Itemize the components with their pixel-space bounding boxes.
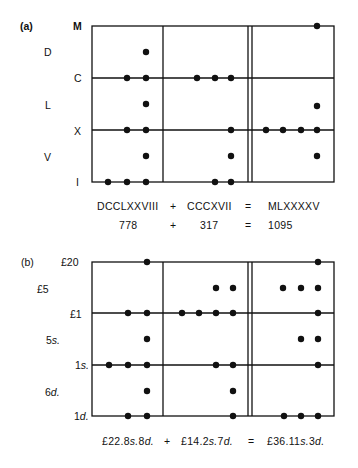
counter [280, 127, 286, 133]
counter [143, 49, 149, 55]
counter [125, 362, 131, 368]
counter [143, 179, 149, 185]
board-b-grid [92, 262, 334, 416]
counter [144, 413, 150, 419]
counter [124, 179, 130, 185]
counter [228, 75, 234, 81]
counter [194, 75, 200, 81]
counter [212, 75, 218, 81]
counter [281, 413, 287, 419]
row-label-5-shillings: 5s. [46, 334, 60, 346]
counter [314, 23, 320, 29]
counter [230, 285, 236, 291]
counter [143, 127, 149, 133]
money-addend-2: £14.2s.7d. [181, 435, 233, 447]
counter [230, 413, 236, 419]
roman-equals: = [245, 200, 251, 212]
row-label-6-pence: 6d. [45, 386, 60, 398]
counter [125, 310, 131, 316]
money-plus: + [164, 435, 170, 447]
roman-sum: MLXXXXV [268, 200, 320, 212]
board-a-counters [105, 23, 320, 185]
row-label-20-pounds: £20 [61, 256, 79, 268]
counter [228, 179, 234, 185]
counter [314, 153, 320, 159]
counter [143, 153, 149, 159]
counter [230, 310, 236, 316]
counter [143, 101, 149, 107]
board-b-counters [106, 259, 321, 419]
board-a-grid [92, 26, 334, 182]
counter [315, 362, 321, 368]
counter [228, 153, 234, 159]
counter [106, 362, 112, 368]
counter [213, 310, 219, 316]
counter [212, 179, 218, 185]
counter [144, 336, 150, 342]
counter [315, 336, 321, 342]
counter [230, 362, 236, 368]
arabic-addend-2: 317 [200, 219, 218, 231]
arabic-plus: + [170, 219, 176, 231]
counter [125, 413, 131, 419]
counter [144, 310, 150, 316]
panel-b-tag: (b) [21, 256, 34, 268]
counter [263, 127, 269, 133]
counter [144, 362, 150, 368]
counter [298, 127, 304, 133]
roman-addend-2: CCCXVII [187, 200, 232, 212]
counter [179, 310, 185, 316]
counter [213, 285, 219, 291]
counter [315, 285, 321, 291]
counter [124, 127, 130, 133]
counter [314, 127, 320, 133]
row-label-1-shilling: 1s. [75, 359, 89, 371]
counter [298, 285, 304, 291]
row-label-1-pound: £1 [70, 308, 82, 320]
counter [315, 413, 321, 419]
roman-plus: + [170, 200, 176, 212]
counter [144, 388, 150, 394]
counter [315, 310, 321, 316]
counter [280, 285, 286, 291]
counter [298, 336, 304, 342]
counter [315, 259, 321, 265]
counter [298, 413, 304, 419]
counter [124, 75, 130, 81]
money-equals: = [248, 435, 254, 447]
counter [143, 75, 149, 81]
arabic-equals: = [245, 219, 251, 231]
counter [213, 362, 219, 368]
money-addend-1: £22.8s.8d. [102, 435, 154, 447]
arabic-addend-1: 778 [119, 219, 137, 231]
roman-addend-1: DCCLXXVIII [97, 200, 158, 212]
counter [230, 388, 236, 394]
row-label-5-pounds: £5 [37, 283, 49, 295]
arabic-sum: 1095 [268, 219, 293, 231]
money-sum: £36.11s.3d. [267, 435, 324, 447]
counter [144, 259, 150, 265]
row-label-1-penny: 1d. [74, 410, 89, 422]
counter [105, 179, 111, 185]
counter [196, 310, 202, 316]
counter [314, 103, 320, 109]
counter [228, 127, 234, 133]
